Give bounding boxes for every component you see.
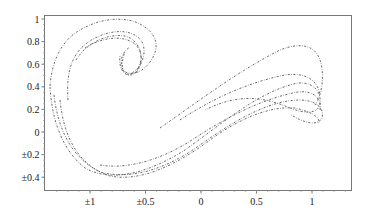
x-tick-label: 1 xyxy=(310,196,315,207)
curve-inner-top-3 xyxy=(85,38,141,74)
plot-curves xyxy=(50,19,323,177)
y-tick-label: 0.6 xyxy=(27,59,40,70)
y-tick-label: 0.4 xyxy=(27,81,40,92)
y-tick-label: ±0.2 xyxy=(22,149,40,160)
curve-band-1 xyxy=(50,83,320,175)
curve-band-4 xyxy=(100,92,320,166)
y-axis: 10.80.60.40.20±0.2±0.4 xyxy=(22,14,45,183)
y-tick-label: 0.2 xyxy=(27,104,40,115)
x-axis: ±1±0.500.51 xyxy=(57,191,346,207)
x-tick-label: ±0.5 xyxy=(137,196,155,207)
y-tick-label: ±0.4 xyxy=(22,172,40,183)
curve-upper-right xyxy=(160,46,322,128)
curve-band-3 xyxy=(60,100,319,177)
curve-upper-right-2 xyxy=(180,74,320,120)
plot-frame xyxy=(45,16,352,191)
x-tick-label: 0 xyxy=(199,196,204,207)
y-tick-label: 0.8 xyxy=(27,36,40,47)
x-tick-label: ±1 xyxy=(85,196,96,207)
curve-inner-top-1 xyxy=(68,32,144,100)
y-tick-label: 0 xyxy=(35,127,40,138)
curve-band-2 xyxy=(54,95,323,175)
y-tick-label: 1 xyxy=(35,14,40,25)
attractor-chart: 10.80.60.40.20±0.2±0.4 ±1±0.500.51 xyxy=(0,0,372,217)
x-tick-label: 0.5 xyxy=(250,196,263,207)
